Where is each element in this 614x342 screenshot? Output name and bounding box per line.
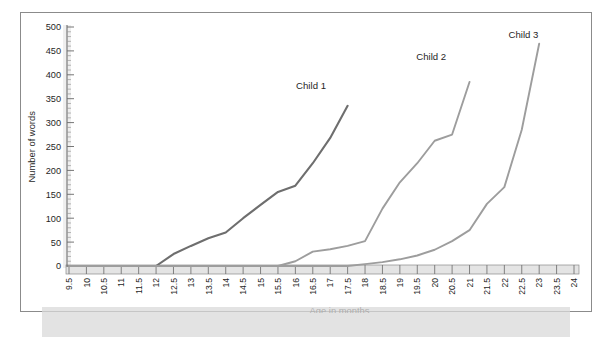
x-tick-label: 15 <box>256 278 266 288</box>
x-tick-label: 16 <box>291 278 301 288</box>
series-line-3 <box>69 44 539 266</box>
line-chart-svg: 050100150200250300350400450500Number of … <box>21 13 593 313</box>
y-tick-label: 400 <box>46 70 61 80</box>
y-tick-label: 100 <box>46 214 61 224</box>
x-tick-label: 22.5 <box>517 278 527 295</box>
x-tick-label: 10 <box>82 278 92 288</box>
y-tick-label: 350 <box>46 94 61 104</box>
y-tick-label: 250 <box>46 142 61 152</box>
x-tick-label: 21.5 <box>482 278 492 295</box>
x-tick-label: 9.5 <box>64 278 74 290</box>
series-line-1 <box>69 106 348 266</box>
x-tick-label: 12 <box>151 278 161 288</box>
x-tick-label: 24 <box>569 278 579 288</box>
x-tick-label: 14.5 <box>238 278 248 295</box>
x-tick-label: 15.5 <box>273 278 283 295</box>
y-axis-title: Number of words <box>26 111 37 183</box>
y-tick-label: 50 <box>51 238 61 248</box>
x-tick-label: 17 <box>325 278 335 288</box>
x-tick-label: 20 <box>430 278 440 288</box>
y-tick-label: 300 <box>46 118 61 128</box>
y-tick-label: 450 <box>46 46 61 56</box>
y-tick-label: 0 <box>56 261 61 271</box>
x-tick-label: 21 <box>465 278 475 288</box>
x-tick-label: 20.5 <box>447 278 457 295</box>
x-tick-label: 18.5 <box>378 278 388 295</box>
x-tick-label: 16.5 <box>308 278 318 295</box>
chart-frame: 050100150200250300350400450500Number of … <box>20 12 592 312</box>
x-tick-label: 17.5 <box>343 278 353 295</box>
series-label-3: Child 3 <box>509 29 539 40</box>
series-label-2: Child 2 <box>416 51 446 62</box>
x-tick-label: 11.5 <box>134 278 144 294</box>
y-tick-label: 150 <box>46 190 61 200</box>
series-line-2 <box>69 82 470 266</box>
x-tick-label: 22 <box>500 278 510 288</box>
x-tick-label: 19.5 <box>412 278 422 295</box>
y-tick-label: 200 <box>46 166 61 176</box>
x-tick-label: 23 <box>534 278 544 288</box>
plot-area: 050100150200250300350400450500Number of … <box>21 13 593 313</box>
x-tick-label: 12.5 <box>169 278 179 295</box>
caption-band <box>42 307 570 337</box>
x-tick-label: 14 <box>221 278 231 288</box>
x-tick-label: 19 <box>395 278 405 288</box>
series-label-1: Child 1 <box>296 80 326 91</box>
x-tick-label: 11 <box>116 278 126 287</box>
x-tick-label: 13.5 <box>204 278 214 295</box>
x-tick-label: 13 <box>186 278 196 288</box>
x-tick-label: 10.5 <box>99 278 109 295</box>
y-tick-label: 500 <box>46 22 61 32</box>
x-tick-label: 23.5 <box>552 278 562 295</box>
x-tick-label: 18 <box>360 278 370 288</box>
